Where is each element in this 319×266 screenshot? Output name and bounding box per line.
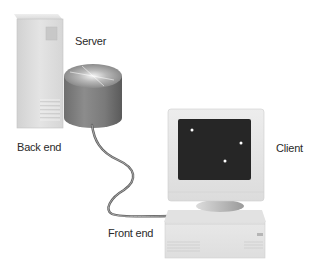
back-end-label: Back end — [17, 141, 61, 153]
client-server-diagram: Server Back end Client Front end — [0, 0, 319, 266]
disk-cylinder-icon — [64, 64, 122, 128]
desktop-computer-icon — [164, 109, 266, 258]
front-end-label: Front end — [108, 227, 153, 239]
client-label: Client — [276, 142, 303, 154]
monitor-screen — [178, 119, 251, 180]
server-label: Server — [75, 35, 106, 47]
diagram-artwork — [0, 0, 319, 266]
server-tower-icon — [14, 14, 63, 128]
